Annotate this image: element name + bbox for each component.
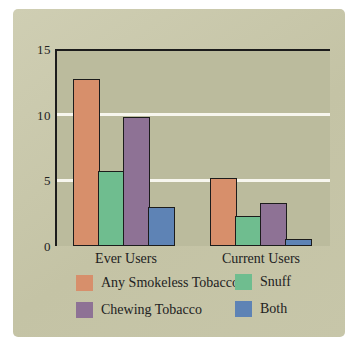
legend-label-chewing-tobacco: Chewing Tobacco [101,302,202,318]
bar-ever-users-snuff [98,171,125,246]
category-label-ever-users: Ever Users [95,251,157,267]
legend-swatch-both [235,301,252,317]
bar-current-users-chewing-tobacco [260,203,287,246]
bar-current-users-both [285,239,312,246]
plot-area [55,49,330,246]
y-tick-label-5: 5 [11,174,51,187]
y-tick-label-15: 15 [11,43,51,56]
legend-swatch-snuff [235,274,252,290]
legend-label-both: Both [260,301,287,317]
legend-swatch-any-smokeless-tobacco [76,275,93,291]
legend-item-any-smokeless-tobacco: Any Smokeless Tobacco [76,275,239,291]
bar-current-users-snuff [235,216,262,246]
legend-item-both: Both [235,301,287,317]
plot-top-border-line [55,49,330,51]
category-label-current-users: Current Users [222,251,300,267]
y-tick-label-0: 0 [11,240,51,253]
legend-label-any-smokeless-tobacco: Any Smokeless Tobacco [101,275,239,291]
y-axis-line [55,49,57,246]
bar-current-users-any-smokeless-tobacco [210,178,237,246]
chart-card: Ever Users Current Users Any Smokeless T… [13,9,345,337]
bar-ever-users-both [148,207,175,246]
legend-swatch-chewing-tobacco [76,302,93,318]
y-tick-label-10: 10 [11,108,51,121]
legend-item-chewing-tobacco: Chewing Tobacco [76,302,202,318]
bar-ever-users-any-smokeless-tobacco [73,79,100,246]
bar-ever-users-chewing-tobacco [123,117,150,246]
legend-label-snuff: Snuff [260,274,291,290]
legend-item-snuff: Snuff [235,274,291,290]
